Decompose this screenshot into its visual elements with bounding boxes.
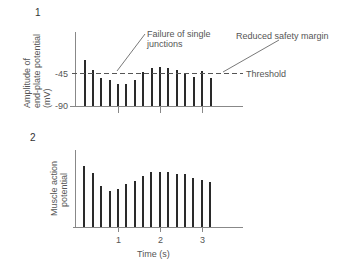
figure: 1 Amplitude of end-plate potential (mV) … [0,0,347,266]
annotation-failure-line-2: junctions [146,39,183,49]
threshold-label: Threshold [246,69,286,79]
panel-2-axes [73,150,243,232]
ylabel-line-1: Muscle action [49,161,59,216]
annotation-reduced-margin: Reduced safety margin [236,31,329,41]
ytick-label-minus45: -45 [55,69,68,79]
panel-2-number: 2 [30,132,36,143]
ytick-label-minus90: -90 [55,101,68,111]
xtick-label-1: 1 [116,235,121,245]
x-axis-label: Time (s) [137,249,170,259]
failure-leader-line [117,34,145,71]
panel-2-bars [84,166,210,227]
margin-leader-line [223,40,279,72]
annotation-failure-line-1: Failure of single [147,29,211,39]
xtick-label-3: 3 [200,235,205,245]
panel-1-ylabel: Amplitude of end-plate potential (mV) [22,34,52,108]
ylabel-line-2: end-plate potential [32,34,42,108]
panel-2-ylabel: Muscle action potential [49,161,69,216]
xtick-label-2: 2 [158,235,163,245]
panel-1-number: 1 [35,7,41,18]
panel-1-bars [85,60,211,106]
ylabel-line-2: potential [59,173,69,207]
ylabel-line-3: (mV) [42,89,52,109]
ylabel-line-1: Amplitude of [22,57,32,108]
